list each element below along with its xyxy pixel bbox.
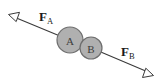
vector-label-fa: FA [39, 8, 53, 24]
arrowhead-fa-icon [9, 12, 20, 21]
body-label-b: B [87, 43, 94, 55]
vector-subscript-fa: A [47, 16, 53, 26]
diagram-canvas: A B [0, 0, 160, 81]
vector-label-fb: FB [121, 43, 135, 59]
arrowhead-fb-icon [143, 68, 154, 77]
force-diagram: A B FA FB [0, 0, 160, 81]
vector-symbol-fa: F [39, 9, 47, 24]
vector-symbol-fb: F [121, 44, 129, 59]
vector-subscript-fb: B [129, 51, 135, 61]
body-label-a: A [66, 35, 74, 47]
